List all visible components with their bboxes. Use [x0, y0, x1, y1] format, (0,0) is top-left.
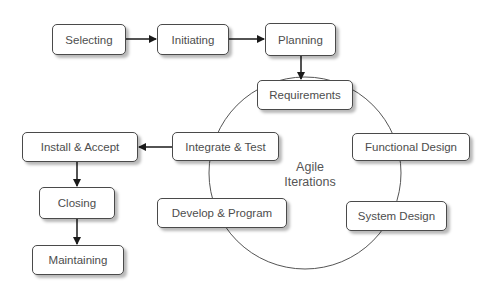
node-functional-design: Functional Design	[352, 133, 470, 161]
node-initiating-label: Initiating	[172, 34, 215, 46]
node-requirements: Requirements	[257, 80, 353, 110]
node-functional-design-label: Functional Design	[365, 141, 457, 153]
agile-iterations-label: Agile Iterations	[270, 160, 350, 190]
node-integrate-test: Integrate & Test	[172, 132, 279, 161]
node-planning-label: Planning	[278, 34, 323, 46]
node-develop-program: Develop & Program	[157, 198, 287, 228]
node-initiating: Initiating	[157, 24, 229, 55]
node-planning: Planning	[265, 23, 336, 56]
node-install-accept-label: Install & Accept	[41, 141, 120, 153]
agile-lifecycle-diagram: Selecting Initiating Planning Requiremen…	[0, 0, 491, 296]
node-closing: Closing	[39, 187, 115, 219]
node-maintaining-label: Maintaining	[49, 254, 108, 266]
node-requirements-label: Requirements	[269, 89, 341, 101]
node-selecting-label: Selecting	[65, 34, 112, 46]
node-system-design: System Design	[346, 201, 447, 231]
node-selecting: Selecting	[52, 24, 126, 55]
node-closing-label: Closing	[58, 197, 96, 209]
node-integrate-test-label: Integrate & Test	[185, 141, 265, 153]
node-maintaining: Maintaining	[32, 245, 124, 275]
node-system-design-label: System Design	[358, 210, 435, 222]
node-develop-program-label: Develop & Program	[172, 207, 272, 219]
agile-iterations-line2: Iterations	[270, 175, 350, 190]
agile-iterations-line1: Agile	[270, 160, 350, 175]
node-install-accept: Install & Accept	[22, 132, 138, 162]
